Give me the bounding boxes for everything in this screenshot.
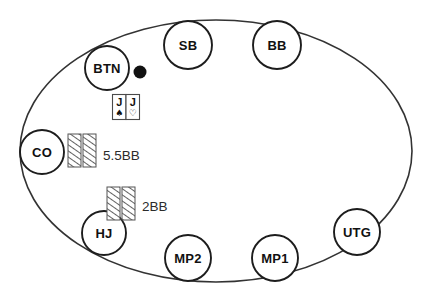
bet-co-chip-stack-2	[83, 134, 96, 167]
bet-hj-amount-label: 2BB	[142, 199, 168, 214]
bet-hj-chip-stack-1	[107, 187, 120, 220]
seat-btn-label: BTN	[93, 61, 120, 76]
bet-co-chip-stack-1	[68, 134, 81, 167]
hole-card-2: J ♡	[126, 95, 140, 120]
seat-bb[interactable]: BB	[253, 21, 301, 69]
seat-sb[interactable]: SB	[164, 21, 212, 69]
spade-icon: ♠	[115, 108, 123, 118]
bet-hj-chip-stack-2	[122, 187, 135, 220]
seat-mp1[interactable]: MP1	[252, 235, 298, 281]
seat-utg[interactable]: UTG	[334, 209, 380, 255]
seat-hj-label: HJ	[95, 226, 112, 241]
seat-co[interactable]: CO	[20, 130, 64, 174]
seat-sb-label: SB	[179, 38, 197, 53]
hole-card-1: J ♠	[113, 95, 127, 120]
hole-cards-group: J ♠ J ♡	[113, 95, 140, 120]
heart-icon: ♡	[129, 108, 137, 118]
dealer-button-icon	[134, 66, 147, 79]
hole-card-2-rank: J	[130, 96, 136, 108]
seat-bb-label: BB	[267, 38, 286, 53]
bet-co-amount-label: 5.5BB	[103, 148, 140, 163]
seat-co-label: CO	[32, 145, 52, 160]
seat-utg-label: UTG	[343, 225, 371, 240]
seat-mp1-label: MP1	[261, 251, 288, 266]
seat-btn[interactable]: BTN	[85, 46, 129, 90]
seat-mp2-label: MP2	[174, 251, 201, 266]
poker-table-diagram: BTN SB BB UTG MP1 MP2 HJ CO	[0, 0, 428, 300]
hole-card-1-rank: J	[116, 96, 122, 108]
seat-mp2[interactable]: MP2	[165, 235, 211, 281]
